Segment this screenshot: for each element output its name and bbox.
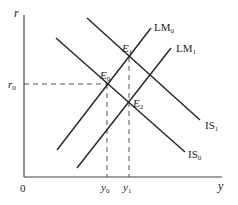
lm0-label: LM0 (154, 21, 175, 35)
lm1-base: LM (176, 42, 193, 54)
e2-sub: 2 (140, 103, 144, 111)
y1-sub: 1 (128, 187, 132, 195)
lm0-curve (57, 28, 151, 150)
is0-sub: 0 (198, 154, 202, 162)
e0-sub: 0 (107, 75, 111, 83)
is1-base: IS (205, 119, 215, 131)
x-axis-label: y (217, 179, 224, 193)
lm1-label: LM1 (176, 42, 197, 56)
y0-sub: 0 (106, 187, 110, 195)
e2-label: E2 (132, 97, 144, 111)
y0-label: y0 (100, 181, 110, 195)
origin-label: 0 (20, 182, 26, 194)
lm1-curve (77, 48, 171, 168)
is0-label: IS0 (188, 148, 202, 162)
lm0-sub: 0 (171, 27, 175, 35)
is1-sub: 1 (215, 125, 219, 133)
is1-label: IS1 (205, 119, 219, 133)
is-lm-diagram: r y 0 r0 y0 y1 E0 E1 E2 LM0 LM1 IS1 IS0 (0, 0, 238, 205)
lm0-base: LM (154, 21, 171, 33)
r0-label: r0 (8, 78, 16, 92)
r0-sub: 0 (12, 84, 16, 92)
e0-label: E0 (99, 69, 111, 83)
is0-base: IS (188, 148, 198, 160)
y-axis-label: r (14, 6, 19, 20)
e1-sub: 1 (129, 48, 133, 56)
e1-label: E1 (121, 42, 133, 56)
lm1-sub: 1 (193, 48, 197, 56)
y1-label: y1 (122, 181, 132, 195)
